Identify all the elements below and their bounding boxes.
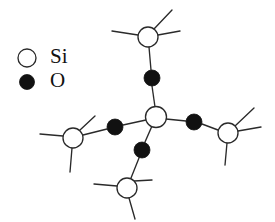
terminal-bond: [80, 116, 95, 130]
terminal-bond: [158, 31, 180, 35]
si-o-bond: [83, 129, 107, 135]
si-o-bond: [145, 126, 152, 142]
oxygen-atom: [107, 119, 123, 135]
terminal-bond: [154, 10, 172, 29]
si-o-bond: [149, 47, 151, 70]
silicon-atom: [117, 178, 137, 198]
oxygen-atom: [134, 142, 150, 158]
terminal-bond: [112, 31, 138, 35]
legend-filled-circle-icon: [20, 75, 35, 90]
terminal-bond: [225, 143, 227, 165]
silica-network-figure: SiO: [0, 0, 275, 222]
terminal-bond: [134, 180, 152, 181]
si-o-bond: [202, 124, 218, 130]
si-o-bond: [166, 119, 186, 121]
si-o-bond: [131, 158, 139, 178]
silicon-atom: [138, 27, 158, 47]
structure-diagram: SiO: [0, 0, 275, 222]
terminal-bond: [94, 184, 117, 186]
legend-label: O: [50, 68, 65, 92]
legend-open-circle-icon: [18, 49, 36, 67]
terminal-bond: [70, 148, 72, 172]
terminal-bond: [235, 108, 254, 126]
terminal-bond: [129, 198, 135, 219]
oxygen-atom: [144, 70, 160, 86]
silicon-atom: [218, 123, 238, 143]
silicon-atom: [146, 107, 167, 128]
silicon-atoms-group: [63, 27, 238, 198]
si-o-bond: [123, 120, 146, 125]
oxygen-atom: [186, 114, 202, 130]
si-o-bond: [152, 86, 155, 107]
legend-label: Si: [50, 44, 68, 68]
terminal-bond: [40, 134, 63, 136]
legend: SiO: [18, 44, 68, 92]
silicon-atom: [63, 128, 83, 148]
terminal-bond: [238, 127, 261, 131]
